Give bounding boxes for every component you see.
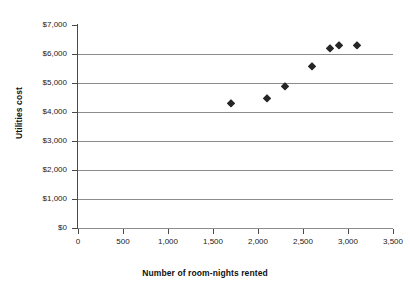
data-point bbox=[353, 41, 361, 49]
x-axis-tick bbox=[348, 229, 349, 234]
x-axis-title: Number of room-nights rented bbox=[0, 268, 410, 278]
y-axis-tick-label: $7,000 bbox=[7, 21, 67, 29]
x-axis-tick bbox=[393, 229, 394, 234]
x-axis-tick-label: 1,500 bbox=[188, 238, 238, 246]
x-axis-tick bbox=[78, 229, 79, 234]
x-axis-tick bbox=[168, 229, 169, 234]
x-axis-tick-label: 2,000 bbox=[233, 238, 283, 246]
data-point bbox=[263, 94, 271, 102]
data-point bbox=[326, 44, 334, 52]
y-axis-tick-label: $3,000 bbox=[7, 137, 67, 145]
data-point bbox=[308, 62, 316, 70]
y-axis-tick bbox=[72, 199, 77, 200]
x-axis-tick bbox=[258, 229, 259, 234]
y-axis-tick-label: $2,000 bbox=[7, 166, 67, 174]
gridline bbox=[78, 228, 393, 229]
x-axis-tick-label: 0 bbox=[53, 238, 103, 246]
chart-title bbox=[0, 0, 410, 2]
y-axis-tick bbox=[72, 141, 77, 142]
x-axis-tick bbox=[303, 229, 304, 234]
data-point bbox=[227, 99, 235, 107]
y-axis-tick-label: $4,000 bbox=[7, 108, 67, 116]
data-point bbox=[335, 41, 343, 49]
x-axis-tick-label: 1,000 bbox=[143, 238, 193, 246]
data-point bbox=[281, 82, 289, 90]
y-axis-tick bbox=[72, 170, 77, 171]
y-axis-tick-label: $5,000 bbox=[7, 79, 67, 87]
x-axis-tick-label: 2,500 bbox=[278, 238, 328, 246]
x-axis-tick bbox=[213, 229, 214, 234]
y-axis-tick bbox=[72, 54, 77, 55]
x-axis-tick-label: 3,000 bbox=[323, 238, 373, 246]
y-axis-tick bbox=[72, 228, 77, 229]
y-axis-tick-label: $1,000 bbox=[7, 195, 67, 203]
y-axis-tick bbox=[72, 25, 77, 26]
x-axis-tick bbox=[123, 229, 124, 234]
plot-area bbox=[78, 25, 393, 228]
x-axis-tick-label: 500 bbox=[98, 238, 148, 246]
y-axis-tick bbox=[72, 112, 77, 113]
scatter-chart: Utilities cost Number of room-nights ren… bbox=[0, 0, 410, 293]
y-axis-tick-label: $6,000 bbox=[7, 50, 67, 58]
y-axis-tick-label: $0 bbox=[7, 224, 67, 232]
x-axis-tick-label: 3,500 bbox=[368, 238, 410, 246]
y-axis-tick bbox=[72, 83, 77, 84]
